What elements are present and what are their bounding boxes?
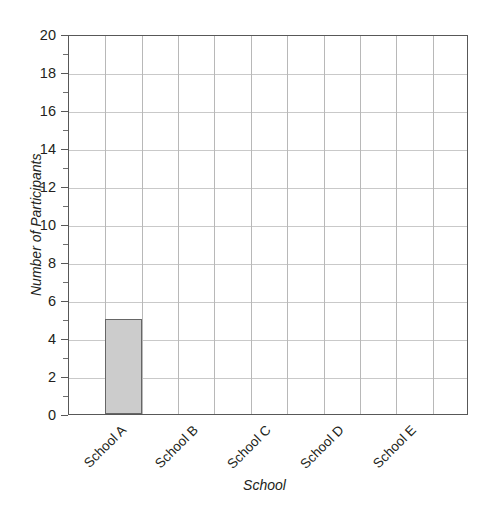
gridline-horizontal xyxy=(69,188,467,189)
y-tick-label: 8 xyxy=(24,256,56,271)
gridline-horizontal xyxy=(69,302,467,303)
plot-area xyxy=(68,35,468,415)
y-tick-major xyxy=(61,377,68,378)
x-tick-label: School A xyxy=(81,423,128,470)
y-tick-label: 6 xyxy=(24,294,56,309)
bar-chart: Number of Participants 02468101214161820… xyxy=(0,0,487,514)
y-tick-minor xyxy=(63,130,68,131)
gridline-vertical xyxy=(324,36,325,414)
y-tick-major xyxy=(61,225,68,226)
x-axis-title-text: School xyxy=(243,477,286,493)
gridline-horizontal xyxy=(69,264,467,265)
y-tick-minor xyxy=(63,244,68,245)
y-tick-minor xyxy=(63,92,68,93)
y-tick-label: 2 xyxy=(24,370,56,385)
y-tick-minor xyxy=(63,320,68,321)
gridline-vertical xyxy=(251,36,252,414)
y-tick-minor xyxy=(63,358,68,359)
gridline-vertical xyxy=(214,36,215,414)
gridline-vertical xyxy=(360,36,361,414)
y-tick-label: 20 xyxy=(24,28,56,43)
y-tick-minor xyxy=(63,206,68,207)
y-tick-label: 4 xyxy=(24,332,56,347)
gridline-horizontal xyxy=(69,226,467,227)
x-tick-label: School E xyxy=(371,423,419,471)
gridline-horizontal xyxy=(69,112,467,113)
y-tick-major xyxy=(61,415,68,416)
y-tick-label: 0 xyxy=(24,408,56,423)
y-tick-major xyxy=(61,35,68,36)
gridline-vertical xyxy=(396,36,397,414)
y-tick-major xyxy=(61,339,68,340)
y-tick-major xyxy=(61,263,68,264)
y-tick-minor xyxy=(63,396,68,397)
y-tick-minor xyxy=(63,54,68,55)
gridline-vertical xyxy=(142,36,143,414)
y-tick-label: 16 xyxy=(24,104,56,119)
gridline-horizontal xyxy=(69,150,467,151)
y-tick-major xyxy=(61,149,68,150)
gridline-vertical xyxy=(178,36,179,414)
y-tick-label: 18 xyxy=(24,66,56,81)
x-axis-title: School xyxy=(0,477,487,493)
y-tick-label: 10 xyxy=(24,218,56,233)
gridline-vertical xyxy=(433,36,434,414)
gridline-horizontal xyxy=(69,74,467,75)
y-tick-minor xyxy=(63,282,68,283)
y-tick-major xyxy=(61,301,68,302)
y-tick-major xyxy=(61,111,68,112)
bar xyxy=(105,319,141,414)
y-tick-minor xyxy=(63,168,68,169)
x-tick-label: School D xyxy=(298,423,346,471)
x-tick-label: School B xyxy=(153,423,201,471)
y-tick-label: 14 xyxy=(24,142,56,157)
y-tick-major xyxy=(61,187,68,188)
y-tick-label: 12 xyxy=(24,180,56,195)
y-tick-major xyxy=(61,73,68,74)
x-tick-label: School C xyxy=(225,423,273,471)
gridline-vertical xyxy=(287,36,288,414)
